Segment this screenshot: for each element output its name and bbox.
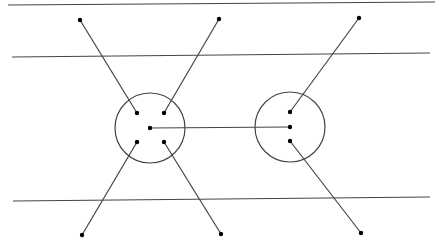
dot — [162, 140, 166, 144]
connector-line — [80, 20, 137, 113]
dot — [80, 233, 84, 237]
dot — [288, 139, 292, 143]
horizontal-line-3 — [13, 197, 430, 201]
diagram-canvas — [0, 0, 443, 251]
connector-line — [164, 19, 219, 113]
dot — [135, 111, 139, 115]
connector-line — [164, 142, 221, 234]
dot — [148, 126, 152, 130]
connector-line — [290, 18, 359, 112]
dot — [217, 17, 221, 21]
dots — [78, 16, 363, 237]
dot — [359, 231, 363, 235]
connector-line — [82, 142, 137, 235]
horizontal-line-2 — [12, 53, 430, 57]
connector-line — [150, 127, 290, 128]
dot — [135, 140, 139, 144]
dot — [162, 111, 166, 115]
horizontal-line-1 — [8, 2, 435, 5]
horizontal-lines — [8, 2, 435, 201]
connector-line — [290, 141, 361, 233]
dot — [219, 232, 223, 236]
dot — [288, 125, 292, 129]
connectors — [80, 18, 361, 235]
dot — [78, 18, 82, 22]
dot — [357, 16, 361, 20]
dot — [288, 110, 292, 114]
